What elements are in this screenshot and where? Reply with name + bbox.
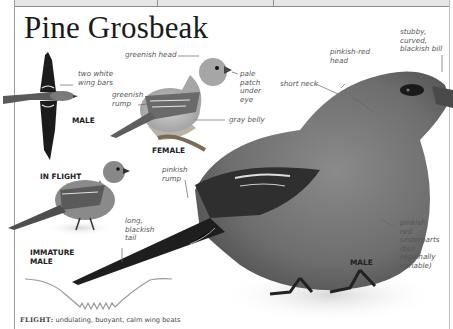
label-pinkish-rump: pinkish rump	[162, 166, 188, 183]
caption-in-flight: IN FLIGHT	[40, 172, 81, 181]
label-greenish-head: greenish head	[125, 51, 176, 60]
flight-text: undulating, buoyant, calm wing beats	[56, 316, 181, 324]
label-short-neck: short neck	[280, 80, 318, 89]
label-gray-belly: gray belly	[229, 116, 265, 125]
label-two-white-wing-bars: two white wing bars	[78, 70, 113, 87]
label-pinkish-red-head: pinkish-red head	[330, 48, 370, 65]
in-flight-male-figure	[3, 52, 78, 160]
caption-male: MALE	[350, 258, 373, 267]
male-figure	[72, 71, 453, 323]
flight-pattern-path	[25, 279, 172, 309]
label-long-blackish-tail: long, blackish tail	[125, 217, 154, 243]
field-guide-page: Pine Grosbeak	[0, 0, 453, 329]
caption-male-flight: MALE	[72, 116, 95, 125]
bird-illustrations	[0, 0, 453, 329]
caption-female: FEMALE	[152, 146, 185, 155]
label-stubby-bill: stubby, curved, blackish bill	[400, 28, 442, 54]
label-pale-patch-under-eye: pale patch under eye	[240, 70, 261, 104]
label-pinkish-red-underparts: pinkish red underparts (but regionally v…	[400, 219, 440, 271]
flight-label: FLIGHT:	[20, 316, 53, 324]
caption-immature-male: IMMATURE MALE	[30, 248, 74, 266]
flight-description: FLIGHT: undulating, buoyant, calm wing b…	[20, 316, 180, 324]
label-greenish-rump: greenish rump	[112, 91, 143, 108]
